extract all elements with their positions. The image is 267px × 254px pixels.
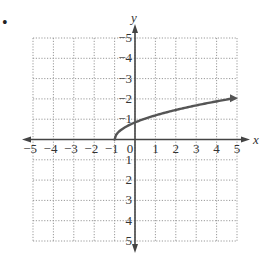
y-tick-label: −5	[118, 30, 132, 45]
x-axis-right-arrow-icon	[241, 137, 250, 143]
x-tick-label: −5	[23, 141, 37, 156]
x-tick-label: 5	[234, 141, 241, 156]
x-tick-label: 2	[173, 141, 180, 156]
y-axis-up-arrow-icon	[132, 24, 138, 33]
y-tick-label: 3	[126, 192, 133, 207]
x-tick-label: −1	[105, 141, 119, 156]
curve-arrow-icon	[230, 94, 238, 102]
x-tick-label: 3	[193, 141, 200, 156]
y-axis-label: y	[129, 10, 137, 25]
x-tick-label: −2	[84, 141, 98, 156]
y-tick-label: 2	[126, 172, 133, 187]
y-tick-label: 4	[126, 213, 133, 228]
y-tick-label: 1	[126, 152, 133, 167]
axes: xy	[22, 10, 259, 253]
y-tick-label: −4	[118, 50, 132, 65]
y-tick-label: −2	[118, 91, 132, 106]
y-axis-down-arrow-icon	[132, 244, 138, 253]
x-tick-label: 1	[152, 141, 159, 156]
x-axis-label: x	[252, 132, 259, 147]
y-tick-label: 5	[126, 233, 133, 248]
y-tick-label: −3	[118, 71, 132, 86]
graph-canvas: xy −5−4−3−2−101234554321−1−2−3−4−5	[0, 0, 267, 254]
x-tick-label: 4	[213, 141, 220, 156]
x-tick-label: −4	[44, 141, 58, 156]
x-tick-label: −3	[64, 141, 78, 156]
